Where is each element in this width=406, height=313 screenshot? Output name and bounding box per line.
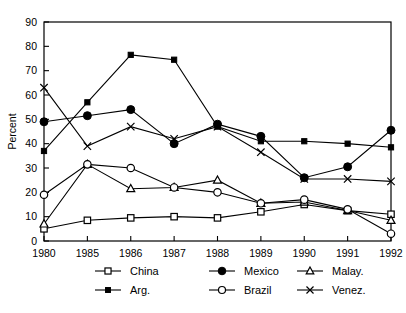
x-axis-tick-label: 1990 [293,247,317,259]
legend-item-arg[interactable]: Arg. [95,284,150,296]
marker-filled-circle [83,112,91,120]
legend-item-mexico[interactable]: Mexico [209,265,279,277]
marker-open-square [214,215,220,221]
marker-filled-circle [127,106,135,114]
legend-label: Brazil [244,284,272,296]
y-axis-title: Percent [6,113,18,149]
legend-item-venez[interactable]: Venez. [297,284,366,296]
legend-label: China [130,265,160,277]
series-arg [41,52,393,153]
marker-filled-square [128,52,133,57]
y-axis-tick-label: 60 [25,89,37,101]
y-axis-tick-label: 0 [31,235,37,247]
marker-open-circle [257,200,264,207]
marker-open-square [258,209,264,215]
marker-open-square [128,215,134,221]
chart-container: 0102030405060708090Percent19801985198619… [0,0,406,313]
legend-item-china[interactable]: China [95,265,160,277]
x-axis-tick-label: 1989 [249,247,273,259]
x-axis-tick-label: 1986 [119,247,143,259]
marker-open-square [171,213,177,219]
marker-open-triangle [214,176,222,183]
series-venez [40,84,394,185]
marker-open-circle [40,191,47,198]
marker-open-circle [214,189,221,196]
x-axis-tick-label: 1992 [379,247,403,259]
legend-label: Venez. [332,284,366,296]
marker-open-circle [344,206,351,213]
series-line [44,55,391,151]
marker-open-circle [84,161,91,168]
marker-filled-square [172,57,177,62]
marker-cross-x [84,142,91,149]
x-axis-tick-label: 1991 [336,247,360,259]
y-axis-tick-label: 40 [25,137,37,149]
marker-filled-square [388,145,393,150]
marker-filled-circle [40,118,48,126]
y-axis-tick-label: 20 [25,186,37,198]
marker-open-circle [218,286,225,293]
y-axis-tick-label: 90 [25,16,37,28]
series-line [44,88,391,182]
series-china [41,201,394,232]
legend-label: Malay. [332,265,364,277]
plot-frame [44,22,391,241]
marker-filled-square [345,141,350,146]
marker-cross-x [127,123,134,130]
marker-filled-circle [218,267,226,275]
series-brazil [40,161,394,238]
marker-open-square [84,217,90,223]
y-axis-tick-label: 10 [25,210,37,222]
legend-label: Mexico [244,265,279,277]
y-axis-tick-label: 50 [25,113,37,125]
y-axis-tick-label: 80 [25,40,37,52]
marker-filled-square [302,139,307,144]
marker-open-circle [387,230,394,237]
marker-open-circle [127,164,134,171]
marker-open-circle [170,184,177,191]
marker-filled-square [85,100,90,105]
marker-filled-square [106,288,111,293]
marker-filled-circle [344,163,352,171]
y-axis-tick-label: 30 [25,162,37,174]
marker-cross-x [257,148,264,155]
marker-open-circle [301,196,308,203]
line-chart: 0102030405060708090Percent19801985198619… [0,0,406,313]
x-axis-tick-label: 1987 [162,247,186,259]
marker-filled-square [41,148,46,153]
x-axis-tick-label: 1980 [32,247,56,259]
marker-open-triangle [306,267,314,274]
legend-item-brazil[interactable]: Brazil [209,284,272,296]
marker-filled-square [258,139,263,144]
x-axis-tick-label: 1985 [76,247,100,259]
marker-filled-circle [387,126,395,134]
legend-item-malay[interactable]: Malay. [297,265,364,277]
legend-label: Arg. [130,284,150,296]
x-axis-tick-label: 1988 [206,247,230,259]
y-axis-tick-label: 70 [25,64,37,76]
marker-open-square [105,268,111,274]
